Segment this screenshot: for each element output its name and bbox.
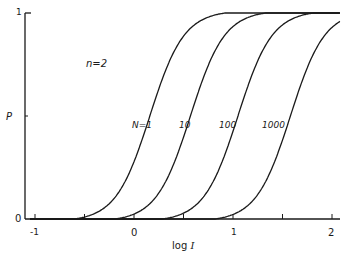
x-tick-label-2: 2 bbox=[328, 228, 334, 238]
x-axis-label: log I bbox=[172, 241, 194, 251]
y-tick-label-0: 0 bbox=[15, 214, 21, 224]
x-tick-label-1: 1 bbox=[231, 228, 237, 237]
curve-label-n100: 100 bbox=[219, 121, 236, 130]
y-axis-label: P bbox=[6, 112, 12, 122]
curve-label-n10: 10 bbox=[179, 121, 190, 130]
x-axis-label-text: log I bbox=[172, 240, 194, 251]
curves bbox=[30, 13, 340, 219]
x-tick-label-m1: -1 bbox=[30, 228, 39, 237]
curve-n1 bbox=[30, 13, 340, 219]
curve-label-n1000: 1000 bbox=[262, 121, 285, 130]
curve-label-n1: N=1 bbox=[132, 121, 152, 130]
y-tick-label-1: 1 bbox=[16, 8, 22, 17]
curve-n100 bbox=[30, 13, 340, 219]
chart-plot-area bbox=[0, 0, 348, 256]
annotation-n: n=2 bbox=[86, 59, 107, 69]
curve-n10 bbox=[30, 13, 340, 219]
x-tick-label-0: 0 bbox=[131, 228, 137, 238]
